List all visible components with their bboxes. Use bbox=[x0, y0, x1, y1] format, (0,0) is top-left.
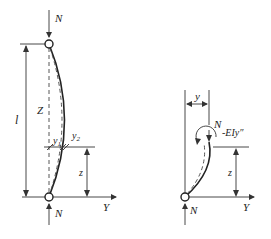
moment-arrowhead bbox=[195, 138, 201, 145]
top-load-label: N bbox=[54, 12, 63, 24]
free-body-curve bbox=[185, 142, 210, 197]
left-panel: N l Z y1 y2 z Y bbox=[15, 10, 116, 225]
y2-label: y2 bbox=[71, 130, 80, 143]
length-label: l bbox=[15, 113, 19, 127]
axis-y-label: Y bbox=[103, 201, 111, 213]
height-arrow-bottom bbox=[84, 190, 90, 197]
moment-label: -EIy″ bbox=[222, 127, 244, 138]
deflection-arrow-left bbox=[186, 101, 192, 107]
buckled-column-dashed-curve bbox=[50, 48, 62, 193]
section-force-label: N bbox=[213, 118, 222, 130]
height-arrow-top-right bbox=[233, 148, 239, 155]
column-buckling-diagram: N l Z y1 y2 z Y bbox=[0, 0, 271, 239]
length-arrow-bottom bbox=[23, 190, 29, 197]
deflection-arrow-right bbox=[202, 101, 208, 107]
axis-y-label-right: Y bbox=[243, 201, 251, 213]
axis-z-label: Z bbox=[37, 104, 44, 116]
bottom-pin-support bbox=[45, 193, 53, 201]
right-panel: y N -EIy″ z Y N bbox=[181, 90, 254, 225]
deflection-label: y bbox=[194, 90, 200, 102]
y1-label: y1 bbox=[52, 135, 61, 148]
section-force-arrowhead bbox=[206, 135, 212, 142]
bottom-load-label-right: N bbox=[189, 204, 198, 216]
length-arrow-top bbox=[23, 45, 29, 52]
height-arrow-bottom-right bbox=[233, 190, 239, 197]
height-label: z bbox=[78, 167, 83, 178]
height-label-right: z bbox=[227, 167, 232, 178]
bottom-load-label: N bbox=[54, 207, 63, 219]
height-arrow-top bbox=[84, 148, 90, 155]
bottom-pin-support-right bbox=[181, 193, 189, 201]
top-pin-support bbox=[45, 40, 53, 48]
